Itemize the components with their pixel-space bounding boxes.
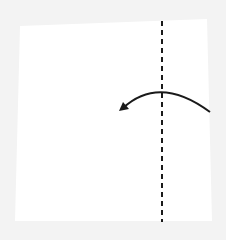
diagram-canvas	[0, 0, 226, 240]
fold-diagram	[0, 0, 226, 240]
paper-sheet	[15, 19, 212, 221]
